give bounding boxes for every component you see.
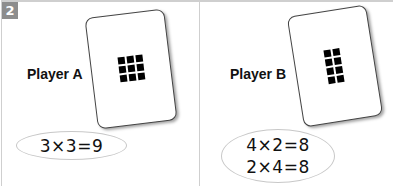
dot-icon — [136, 63, 144, 71]
dot-icon — [326, 67, 334, 75]
dot-icon — [126, 56, 134, 64]
dot-icon — [135, 55, 143, 63]
player-a-equation-oval: 3×3=9 — [16, 131, 127, 160]
dot-icon — [120, 75, 128, 83]
player-a-dot-array — [118, 55, 146, 83]
dot-icon — [334, 57, 342, 65]
dot-icon — [323, 50, 331, 58]
player-b-label: Player B — [230, 66, 286, 82]
equation: 2×4=8 — [246, 156, 309, 178]
player-a-card — [84, 9, 177, 130]
player-b-dot-array — [323, 48, 344, 84]
panel-divider — [199, 0, 200, 186]
dot-icon — [129, 73, 137, 81]
dot-icon — [325, 58, 333, 66]
equation: 3×3=9 — [40, 135, 103, 157]
dot-icon — [328, 76, 336, 84]
dot-icon — [335, 66, 343, 74]
dot-icon — [138, 72, 146, 80]
dot-icon — [128, 65, 136, 73]
dot-icon — [332, 48, 340, 56]
equation: 4×2=8 — [246, 134, 309, 156]
player-b-card — [287, 4, 384, 127]
player-a-label: Player A — [27, 66, 83, 82]
dot-icon — [118, 57, 126, 65]
dot-icon — [337, 75, 345, 83]
dot-icon — [119, 66, 127, 74]
step-number-badge: 2 — [2, 2, 18, 19]
player-b-equation-oval: 4×2=8 2×4=8 — [221, 129, 335, 183]
